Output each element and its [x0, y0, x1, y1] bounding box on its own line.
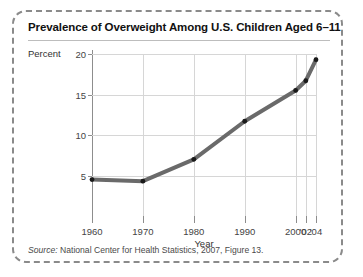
data-point-marker: [314, 57, 319, 62]
y-axis-label: Percent: [28, 48, 61, 59]
y-tick-label: 10: [75, 130, 86, 141]
x-tick-label: 1980: [183, 226, 204, 237]
source-note: Source: National Center for Health Stati…: [28, 245, 264, 255]
x-tick-mark: [194, 216, 195, 223]
data-point-marker: [303, 78, 308, 83]
source-text: National Center for Health Statistics, 2…: [58, 245, 264, 255]
data-point-marker: [141, 179, 146, 184]
chart-container: Percent 2015105 19601970198019902000'02'…: [14, 12, 345, 265]
x-tick-mark: [245, 216, 246, 223]
data-point-marker: [191, 157, 196, 162]
figure-card: Prevalence of Overweight Among U.S. Chil…: [12, 10, 343, 263]
x-tick-mark: [143, 216, 144, 223]
source-label: Source:: [28, 245, 58, 255]
y-tick-label: 5: [81, 170, 86, 181]
x-tick-mark: [316, 216, 317, 223]
y-tick-label: 20: [75, 49, 86, 60]
gridline-vertical: [316, 54, 317, 216]
data-point-marker: [90, 177, 95, 182]
x-tick-mark: [296, 216, 297, 223]
y-tick-label: 15: [75, 89, 86, 100]
x-tick-label: 1960: [81, 226, 102, 237]
x-tick-label: 1990: [234, 226, 255, 237]
plot-area: 2015105 19601970198019902000'02'04: [92, 54, 316, 216]
x-tick-label: '04: [310, 226, 322, 237]
line-series: [92, 54, 316, 216]
x-tick-mark: [306, 216, 307, 223]
x-tick-mark: [92, 216, 93, 223]
x-tick-label: 1970: [132, 226, 153, 237]
data-point-marker: [242, 119, 247, 124]
data-point-marker: [293, 88, 298, 93]
